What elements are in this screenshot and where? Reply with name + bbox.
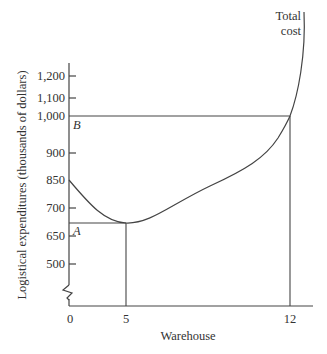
axis-break-icon (63, 285, 72, 300)
point-a-label: A (72, 224, 81, 238)
svg-text:700: 700 (46, 201, 65, 215)
svg-text:1,200: 1,200 (37, 69, 65, 83)
svg-text:12: 12 (284, 312, 297, 326)
y-axis-title: Logistical expenditures (thousands of do… (15, 70, 29, 299)
total-cost-curve (69, 12, 304, 223)
curve-label: Total cost (275, 9, 301, 38)
svg-text:1,000: 1,000 (37, 109, 65, 123)
svg-text:900: 900 (46, 146, 65, 160)
point-b-label: B (73, 118, 81, 132)
svg-text:0: 0 (67, 312, 73, 326)
svg-text:5: 5 (123, 312, 129, 326)
y-tick-labels: 1,200 1,100 1,000 900 850 700 650 500 (37, 69, 65, 271)
svg-text:Total: Total (275, 9, 301, 23)
svg-text:500: 500 (46, 257, 65, 271)
x-axis-title: Warehouse (160, 329, 216, 343)
svg-text:650: 650 (46, 229, 65, 243)
svg-text:850: 850 (46, 173, 65, 187)
svg-text:1,100: 1,100 (37, 91, 65, 105)
x-tick-labels: 0 5 12 (67, 312, 296, 326)
svg-text:cost: cost (281, 24, 302, 38)
total-cost-chart: Logistical expenditures (thousands of do… (0, 0, 327, 354)
